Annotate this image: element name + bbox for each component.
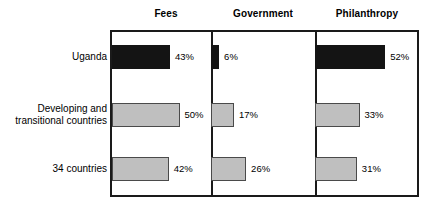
- column-header-government: Government: [211, 8, 315, 20]
- row-label-uganda: Uganda: [0, 51, 107, 63]
- column-header-fees: Fees: [120, 8, 212, 20]
- bar-value-34countries-government: 26%: [251, 163, 270, 174]
- bar-value-developing-government: 17%: [239, 109, 258, 120]
- plot-area: 43% 6% 52% 50% 17% 33% 42%: [110, 30, 419, 197]
- row-label-34-countries: 34 countries: [0, 163, 107, 175]
- bar-34countries-fees: [112, 157, 169, 181]
- bar-uganda-fees: [112, 45, 170, 69]
- bar-uganda-government: [211, 45, 219, 69]
- row-label-developing-and-transitional-countries: Developing and transitional countries: [0, 103, 107, 127]
- bar-value-34countries-fees: 42%: [174, 163, 193, 174]
- bar-value-34countries-philanthropy: 31%: [362, 163, 381, 174]
- bar-developing-philanthropy: [315, 103, 360, 127]
- bar-value-uganda-philanthropy: 52%: [390, 51, 409, 62]
- bar-value-uganda-fees: 43%: [175, 51, 194, 62]
- bar-developing-fees: [112, 103, 180, 127]
- bar-developing-government: [211, 103, 234, 127]
- bar-34countries-government: [211, 157, 246, 181]
- bar-chart: Fees Government Philanthropy Uganda Deve…: [0, 0, 428, 215]
- column-header-philanthropy: Philanthropy: [315, 8, 419, 20]
- bar-value-developing-fees: 50%: [185, 109, 204, 120]
- bar-value-developing-philanthropy: 33%: [365, 109, 384, 120]
- bar-uganda-philanthropy: [315, 45, 385, 69]
- bar-34countries-philanthropy: [315, 157, 357, 181]
- bar-value-uganda-government: 6%: [224, 51, 238, 62]
